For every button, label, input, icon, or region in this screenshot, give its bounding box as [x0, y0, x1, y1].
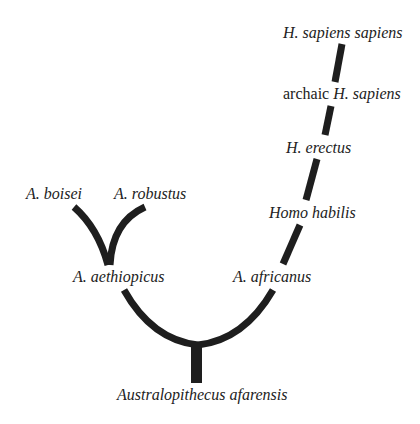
- label-boisei: A. boisei: [26, 185, 82, 203]
- branch-sapiens-sapiens: [335, 44, 342, 82]
- label-aethiopicus: A. aethiopicus: [73, 268, 165, 286]
- stem-afarensis: [191, 343, 202, 383]
- label-archaic-species: H. sapiens: [333, 85, 401, 102]
- label-afarensis: Australopithecus afarensis: [117, 386, 288, 404]
- label-africanus: A. africanus: [233, 268, 311, 286]
- label-robustus: A. robustus: [114, 185, 186, 203]
- label-habilis: Homo habilis: [269, 204, 356, 222]
- label-sapiens-sapiens: H. sapiens sapiens: [283, 24, 403, 42]
- branch-boisei: [74, 207, 108, 265]
- branch-habilis: [283, 225, 300, 264]
- label-archaic-prefix: archaic: [283, 85, 333, 102]
- branch-archaic: [325, 106, 331, 135]
- branch-u-left: [124, 290, 198, 345]
- tree-lines: [0, 0, 420, 424]
- branch-u-right: [198, 290, 273, 345]
- label-erectus: H. erectus: [286, 139, 351, 157]
- label-archaic-sapiens: archaic H. sapiens: [283, 85, 401, 103]
- branch-erectus: [306, 159, 317, 200]
- branch-robustus: [110, 207, 145, 265]
